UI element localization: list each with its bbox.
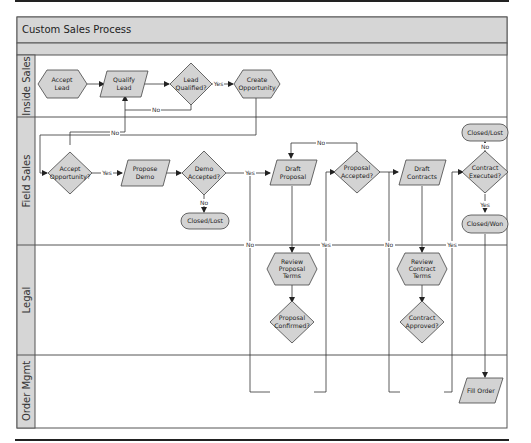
edge-label-no: No: [152, 106, 160, 113]
lane-label-legal: Legal: [21, 287, 32, 314]
svg-text:Contract: Contract: [409, 314, 436, 321]
phase-strip: [17, 43, 507, 55]
edge-label-yes: Yes: [244, 169, 255, 176]
svg-text:Contract: Contract: [472, 164, 499, 171]
svg-text:Propose: Propose: [133, 165, 158, 173]
diagram-title: Custom Sales Process: [22, 24, 131, 35]
svg-text:Review: Review: [411, 258, 433, 265]
svg-text:Lead: Lead: [184, 76, 199, 83]
edge-label-no: No: [317, 139, 325, 146]
svg-text:Draft: Draft: [414, 165, 430, 172]
svg-text:Demo: Demo: [195, 165, 214, 172]
svg-text:Approved?: Approved?: [406, 322, 439, 330]
edge-label-yes: Yes: [213, 80, 224, 87]
svg-text:Draft: Draft: [285, 165, 301, 172]
svg-text:Contract: Contract: [409, 265, 436, 272]
svg-text:Proposal: Proposal: [280, 173, 307, 181]
node-draft-proposal[interactable]: Draft Proposal: [270, 160, 317, 185]
svg-text:Create: Create: [247, 76, 268, 83]
edge-label-yes: Yes: [446, 241, 457, 248]
svg-text:Accept: Accept: [59, 165, 81, 173]
svg-text:Terms: Terms: [412, 272, 431, 279]
lane-label-field-sales: Field Sales: [21, 155, 32, 208]
svg-text:Closed/Won: Closed/Won: [467, 220, 503, 227]
svg-text:Accepted?: Accepted?: [341, 172, 373, 180]
node-closed-won[interactable]: Closed/Won: [462, 215, 508, 233]
node-fill-order[interactable]: Fill Order: [459, 378, 503, 403]
edge-label-no: No: [111, 129, 119, 136]
svg-text:Lead: Lead: [117, 84, 132, 91]
edge-label-no: No: [200, 199, 208, 206]
edge-label-no: No: [481, 143, 489, 150]
node-closed-lost-demo[interactable]: Closed/Lost: [181, 213, 229, 229]
flowchart: Custom Sales Process Inside Sales Field …: [0, 0, 531, 443]
svg-text:Accept: Accept: [51, 76, 73, 84]
svg-text:Executed?: Executed?: [469, 172, 501, 179]
node-review-proposal-terms[interactable]: Review Proposal Terms: [267, 253, 317, 285]
edge-label-yes: Yes: [101, 169, 112, 176]
svg-text:Review: Review: [281, 258, 303, 265]
lane-label-inside-sales: Inside Sales: [21, 56, 32, 116]
svg-text:Accepted?: Accepted?: [188, 173, 220, 181]
edge-label-no: No: [246, 241, 254, 248]
edge-label-yes: Yes: [479, 201, 490, 208]
node-draft-contracts[interactable]: Draft Contracts: [399, 160, 446, 185]
svg-text:Qualify: Qualify: [113, 76, 135, 84]
svg-text:Closed/Lost: Closed/Lost: [467, 129, 503, 136]
svg-text:Demo: Demo: [136, 173, 155, 180]
svg-text:Proposal: Proposal: [279, 314, 306, 322]
lane-label-order-mgmt: Order Mgmt: [21, 361, 32, 421]
edge-label-no: No: [385, 241, 393, 248]
svg-text:Opportunity: Opportunity: [238, 84, 275, 92]
node-create-opportunity[interactable]: Create Opportunity: [234, 70, 280, 98]
node-review-contract-terms[interactable]: Review Contract Terms: [397, 253, 447, 285]
svg-text:Closed/Lost: Closed/Lost: [187, 217, 223, 224]
svg-text:Terms: Terms: [282, 272, 301, 279]
svg-text:Qualified?: Qualified?: [176, 84, 207, 91]
svg-text:Contracts: Contracts: [407, 173, 437, 180]
svg-text:Opportunity?: Opportunity?: [50, 173, 90, 181]
svg-text:Fill Order: Fill Order: [467, 387, 495, 394]
node-accept-lead[interactable]: Accept Lead: [38, 70, 87, 98]
svg-text:Proposal: Proposal: [344, 164, 371, 172]
node-closed-lost-contract[interactable]: Closed/Lost: [462, 124, 508, 141]
edge-label-yes: Yes: [320, 241, 331, 248]
svg-text:Confirmed?: Confirmed?: [274, 322, 309, 329]
svg-text:Lead: Lead: [55, 84, 70, 91]
node-qualify-lead[interactable]: Qualify Lead: [100, 71, 148, 97]
node-propose-demo[interactable]: Propose Demo: [121, 160, 170, 186]
